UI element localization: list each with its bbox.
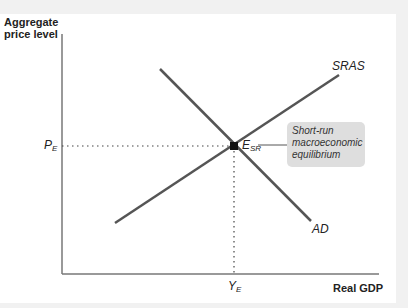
price-label-sub: E (52, 144, 57, 153)
equilibrium-point-label: ESR (242, 138, 261, 153)
equilibrium-point (230, 142, 238, 150)
output-label-sub: E (236, 285, 241, 294)
price-label-main: P (44, 138, 52, 152)
y-axis-label: Aggregate price level (4, 16, 58, 40)
point-label-main: E (242, 138, 250, 152)
sras-label: SRAS (332, 59, 365, 73)
output-equilibrium-label: YE (228, 279, 241, 294)
ad-label: AD (312, 222, 329, 236)
x-axis-label: Real GDP (333, 282, 383, 294)
point-label-sub: SR (250, 144, 261, 153)
price-equilibrium-label: PE (44, 138, 57, 153)
output-label-main: Y (228, 279, 236, 293)
equilibrium-callout: Short-run macroeconomic equilibrium (287, 122, 365, 167)
